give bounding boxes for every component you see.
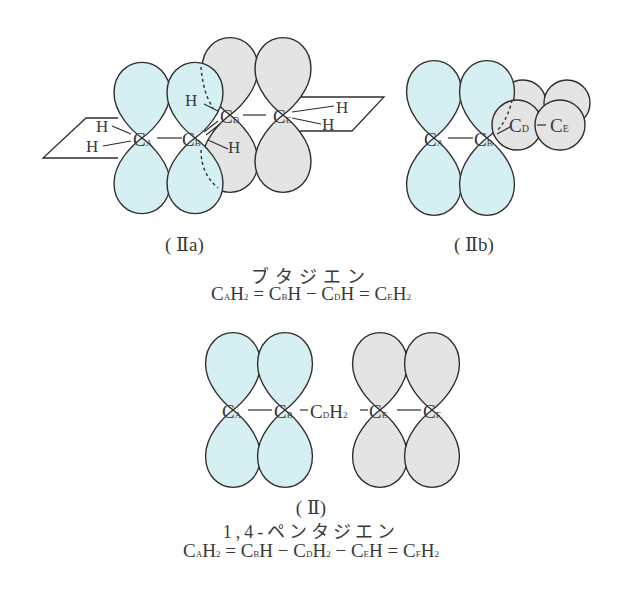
hydrogen-label: H [185,91,197,110]
butadiene-formula: CAH2 = CBH − CDH = CEH2 [0,283,622,305]
diagram-II: CA CB CDH2 CE CF [206,333,460,488]
hydrogen-label: H [86,137,98,156]
atom-CD-H2: CDH2 [310,401,347,422]
caption-IIb: ( Ⅱb) [454,233,494,256]
hydrogen-label: H [96,117,108,136]
caption-IIa: ( Ⅱa) [165,233,204,256]
diagram-IIa: H H H H H H CA CB CD CE [43,38,384,214]
diagram-IIb: CA CB CD CE [407,61,590,216]
pentadiene-formula: CAH2 = CBH − CDH2 − CEH = CFH2 [0,540,622,562]
caption-II: ( Ⅱ) [0,496,622,519]
hydrogen-label: H [336,98,348,117]
hydrogen-label: H [322,115,334,134]
hydrogen-label: H [228,138,240,157]
